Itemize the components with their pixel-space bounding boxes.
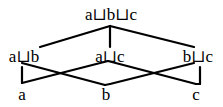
node-ab: a⊔b [9, 48, 39, 65]
node-abc: a⊔b⊔c [85, 6, 137, 23]
edge-ab-b [22, 63, 105, 85]
edge-abc-bc [110, 26, 194, 47]
node-bc: b⊔c [183, 48, 213, 65]
lattice-diagram: a⊔b⊔c a⊔b a⊔c b⊔c a b c [0, 0, 223, 107]
edge-abc-ab [40, 26, 110, 47]
node-c: c [192, 86, 200, 103]
node-ac: a⊔c [95, 48, 124, 65]
node-b: b [102, 86, 111, 103]
node-a: a [18, 86, 26, 103]
